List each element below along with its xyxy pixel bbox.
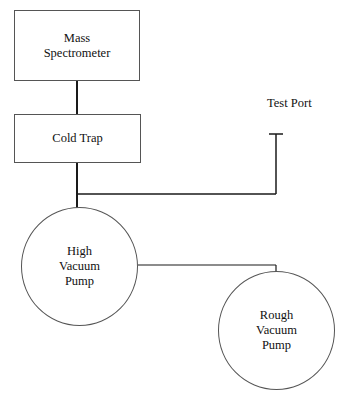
rough-vacuum-pump-circle: Rough Vacuum Pump bbox=[218, 271, 335, 390]
cold-trap-label: Cold Trap bbox=[52, 131, 102, 146]
rough-vacuum-pump-label-line2: Vacuum bbox=[256, 323, 297, 338]
test-port-label: Test Port bbox=[267, 96, 312, 111]
high-vacuum-pump-label-line3: Pump bbox=[59, 274, 100, 289]
high-vacuum-pump-label-line1: High bbox=[59, 244, 100, 259]
high-vacuum-pump-label-line2: Vacuum bbox=[59, 259, 100, 274]
rough-vacuum-pump-label-line3: Pump bbox=[256, 338, 297, 353]
mass-spectrometer-label-line2: Spectrometer bbox=[44, 46, 111, 61]
vacuum-system-diagram: Mass Spectrometer Cold Trap Test Port Hi… bbox=[0, 0, 348, 404]
mass-spectrometer-box: Mass Spectrometer bbox=[14, 10, 140, 81]
cold-trap-box: Cold Trap bbox=[14, 114, 141, 163]
rough-vacuum-pump-label-line1: Rough bbox=[256, 308, 297, 323]
high-vacuum-pump-circle: High Vacuum Pump bbox=[21, 207, 138, 326]
mass-spectrometer-label-line1: Mass bbox=[44, 31, 111, 46]
